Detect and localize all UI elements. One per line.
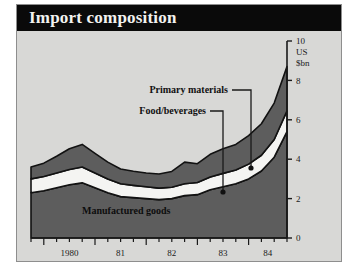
annotation-label-primary-materials: Primary materials bbox=[149, 84, 228, 95]
page-title: Import composition bbox=[29, 8, 177, 28]
stacked-area-chart: 0246810 198081828384 US$bn Primary mater… bbox=[16, 31, 342, 262]
y-axis-tick-label: 6 bbox=[296, 115, 301, 125]
y-axis-tick-label: 4 bbox=[296, 154, 301, 164]
annotation-label-food-beverages: Food/beverages bbox=[139, 105, 206, 116]
y-axis-unit-line: $bn bbox=[296, 58, 310, 68]
leader-dot-food bbox=[220, 189, 225, 194]
x-axis-tick-label: 1980 bbox=[60, 248, 79, 258]
x-axis-tick-label: 84 bbox=[263, 248, 273, 258]
y-axis-tick-label: 2 bbox=[296, 194, 301, 204]
plot-area: 0246810 198081828384 US$bn Primary mater… bbox=[16, 31, 342, 262]
chart-figure: Import composition 0246810 198081828384 … bbox=[0, 0, 356, 270]
y-axis-tick-label: 10 bbox=[296, 36, 306, 46]
leader-dot-primary bbox=[248, 165, 253, 170]
y-axis-unit-label: US$bn bbox=[296, 47, 310, 68]
figure-title-bar: Import composition bbox=[17, 5, 341, 31]
x-axis-tick-label: 83 bbox=[219, 248, 229, 258]
y-axis-tick-label: 8 bbox=[296, 76, 301, 86]
y-axis-tick-label: 0 bbox=[296, 233, 301, 243]
x-axis-tick-labels: 198081828384 bbox=[60, 248, 272, 258]
x-axis-tick-label: 82 bbox=[167, 248, 176, 258]
x-axis-tick-label: 81 bbox=[116, 248, 125, 258]
y-axis-unit-line: US bbox=[296, 47, 308, 57]
annotation-label-manufactured-goods: Manufactured goods bbox=[82, 205, 171, 216]
